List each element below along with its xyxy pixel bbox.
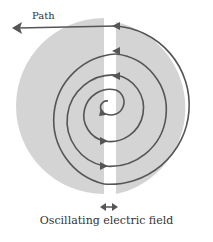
right-dee: [116, 22, 185, 194]
field-label: Oscillating electric field: [0, 214, 213, 227]
field-arrow-icon: [100, 203, 118, 211]
path-label: Path: [32, 10, 55, 21]
cyclotron-diagram: [0, 0, 213, 242]
left-dee: [16, 18, 104, 194]
